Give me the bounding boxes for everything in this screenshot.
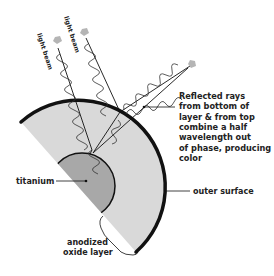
svg-text:wavelength out: wavelength out: [179, 132, 251, 142]
oxide-label-line2: oxide layer: [63, 248, 113, 257]
arrow-icon: [53, 36, 62, 44]
light-beam-label-1: light beam: [35, 32, 55, 71]
titanium-label: titanium: [16, 177, 54, 186]
svg-text:Reflected rays: Reflected rays: [179, 91, 245, 101]
outer-surface-label: outer surface: [193, 187, 254, 196]
oxide-label-line1: anodized: [67, 238, 108, 247]
svg-text:color: color: [179, 153, 203, 163]
svg-text:combine a half: combine a half: [179, 122, 247, 132]
svg-text:from bottom of: from bottom of: [179, 101, 250, 111]
thin-film-interference-diagram: light beam light beam Reflected rays fro…: [0, 0, 274, 276]
light-beam-label-2: light beam: [62, 15, 82, 54]
svg-text:layer & from top: layer & from top: [179, 112, 255, 122]
svg-text:of phase, producing: of phase, producing: [179, 143, 271, 153]
reflected-rays-label: Reflected rays from bottom of layer & fr…: [179, 91, 271, 163]
titanium-core: [49, 153, 115, 219]
arrow-icon: [80, 28, 89, 36]
